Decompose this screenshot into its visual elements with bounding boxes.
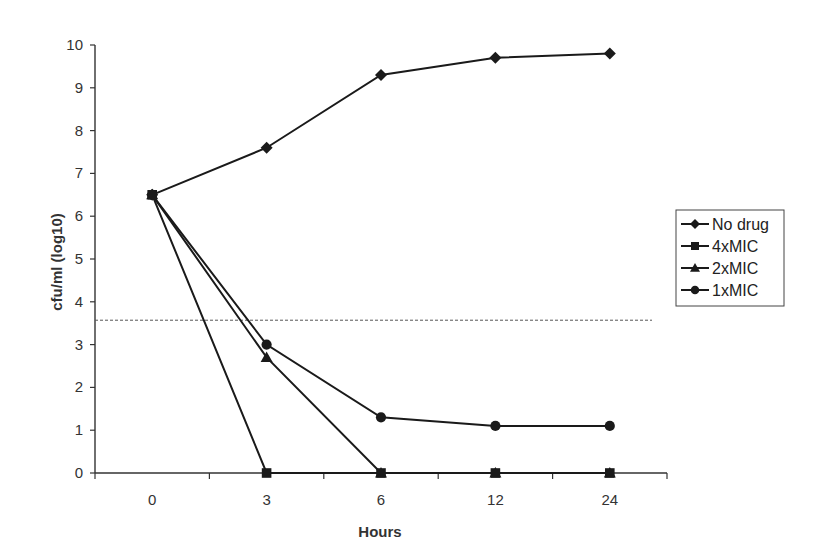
axes: 0123456789100361224 [66, 36, 667, 508]
x-tick-label: 3 [262, 491, 270, 508]
diamond-marker [375, 69, 387, 81]
y-tick-label: 10 [66, 36, 83, 53]
x-tick-label: 24 [601, 491, 618, 508]
y-tick-label: 0 [75, 464, 83, 481]
y-axis-title: cfu/ml (log10) [48, 213, 65, 311]
diamond-marker [489, 52, 501, 64]
y-tick-label: 8 [75, 122, 83, 139]
series-line [152, 195, 610, 473]
y-tick-label: 3 [75, 336, 83, 353]
series-line [152, 195, 610, 473]
circle-marker [262, 340, 272, 350]
circle-marker [691, 286, 700, 295]
y-tick-label: 4 [75, 293, 83, 310]
diamond-marker [261, 142, 273, 154]
square-marker [491, 468, 501, 478]
square-marker [691, 242, 699, 250]
circle-marker [490, 421, 500, 431]
y-tick-label: 1 [75, 421, 83, 438]
circle-marker [605, 421, 615, 431]
legend-label: 1xMIC [712, 282, 758, 299]
legend-label: No drug [712, 216, 769, 233]
series-2xmic [146, 189, 616, 478]
series-group [146, 48, 616, 478]
x-axis-title: Hours [358, 523, 401, 540]
circle-marker [376, 412, 386, 422]
x-tick-label: 6 [377, 491, 385, 508]
diamond-marker [604, 48, 616, 60]
legend-label: 2xMIC [712, 260, 758, 277]
series-line [152, 195, 610, 426]
y-tick-label: 5 [75, 250, 83, 267]
series-4xmic [147, 190, 614, 478]
y-tick-label: 9 [75, 79, 83, 96]
square-marker [262, 468, 272, 478]
series-1xmic [147, 190, 615, 431]
y-tick-label: 6 [75, 207, 83, 224]
y-tick-label: 2 [75, 378, 83, 395]
square-marker [376, 468, 386, 478]
square-marker [605, 468, 615, 478]
x-tick-label: 12 [487, 491, 504, 508]
y-tick-label: 7 [75, 164, 83, 181]
time-kill-chart: 0123456789100361224 Hours cfu/ml (log10)… [0, 0, 815, 557]
x-tick-label: 0 [148, 491, 156, 508]
series-no-drug [146, 48, 616, 201]
legend-label: 4xMIC [712, 238, 758, 255]
legend: No drug4xMIC2xMIC1xMIC [676, 210, 784, 306]
